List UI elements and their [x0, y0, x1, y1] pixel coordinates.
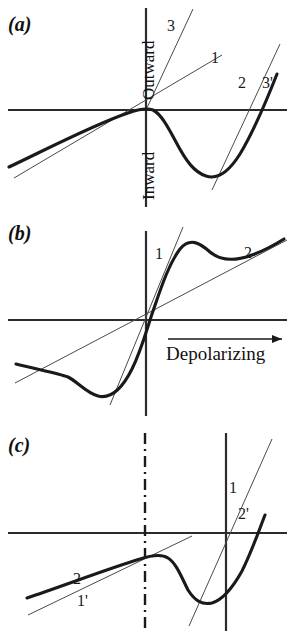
panel-letter-b: (b): [8, 223, 31, 243]
panel-letter-a: (a): [8, 14, 31, 34]
curve-label-3-prime-a: 3': [262, 75, 273, 91]
panel-c-plot: [0, 423, 295, 641]
curve-label-1-c: 1: [229, 480, 237, 496]
load-line-2-1prime-c: [28, 536, 192, 615]
curve-label-2-prime-c: 2': [238, 506, 249, 522]
curve-label-2-b: 2: [244, 245, 252, 261]
depolarizing-arrow: [168, 335, 282, 343]
panel-b: (b) 1 2 Depolarizing: [0, 213, 295, 423]
curve-label-2-a: 2: [238, 75, 246, 91]
curve-label-2-c: 2: [73, 571, 81, 587]
figure-container: (a) Outward Inward 3 1 2 3': [0, 0, 295, 641]
curve-label-1-b: 1: [155, 246, 163, 262]
panel-letter-c: (c): [8, 435, 30, 455]
load-line-3-prime-a: [212, 44, 280, 190]
axis-caption-outward: Outward: [140, 41, 157, 100]
panel-c: (c) 1 2' 2 1': [0, 423, 295, 641]
axis-caption-inward: Inward: [140, 152, 157, 200]
curve-label-1-prime-c: 1': [77, 593, 88, 609]
curve-label-1-a: 1: [211, 50, 219, 66]
curve-label-3-a: 3: [167, 18, 175, 34]
panel-a: (a) Outward Inward 3 1 2 3': [0, 0, 295, 213]
depolarizing-caption: Depolarizing: [166, 344, 265, 363]
